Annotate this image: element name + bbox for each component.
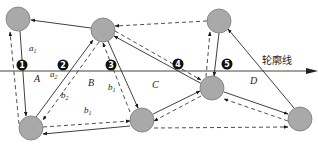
edge-n2-n1 xyxy=(31,20,91,28)
node-4 xyxy=(19,116,43,140)
edge-n6-n2 xyxy=(114,36,202,84)
contour-arrow-icon xyxy=(306,68,318,74)
region-label-d: D xyxy=(249,75,258,86)
edge-label-b1-right: b1 xyxy=(108,82,116,93)
edge-n3-n2 xyxy=(115,21,207,26)
region-label-c: C xyxy=(152,79,159,90)
contour-path-diagram: 轮廓线 xyxy=(0,0,318,144)
svg-text:5: 5 xyxy=(224,60,230,69)
contour-label: 轮廓线 xyxy=(262,54,292,66)
edge-n1-n4 xyxy=(20,31,26,116)
edge-n7-n6 xyxy=(224,99,288,121)
edge-label-a1: a1 xyxy=(29,43,37,54)
edge-n4-n5 xyxy=(43,121,130,127)
node-1 xyxy=(6,7,30,31)
svg-text:1: 1 xyxy=(19,61,25,70)
marker-5: 5 xyxy=(222,59,233,70)
marker-4: 4 xyxy=(173,59,184,70)
edge-n2-n6 xyxy=(115,31,201,80)
svg-text:2: 2 xyxy=(60,61,66,70)
edge-label-b2: b2 xyxy=(61,90,69,101)
node-3 xyxy=(207,9,231,33)
edge-n4-n1 xyxy=(10,32,19,124)
edge-labels: a1 a2 b2 b1 b1 xyxy=(29,43,116,116)
edge-n2-n5 xyxy=(108,41,138,108)
edge-n6-n3 xyxy=(206,32,210,77)
marker-2: 2 xyxy=(58,60,69,71)
contour-line xyxy=(0,68,318,74)
node-6 xyxy=(200,76,224,100)
edge-n7-n3 xyxy=(228,29,294,108)
markers: 1 2 3 4 5 xyxy=(17,59,233,71)
marker-3: 3 xyxy=(106,60,117,71)
edge-n5-n2 xyxy=(103,43,130,112)
svg-text:4: 4 xyxy=(175,60,181,69)
edge-n6-n7 xyxy=(224,92,288,114)
edge-n3-n6 xyxy=(214,33,219,76)
edge-n5-n7 xyxy=(154,127,288,128)
edge-n6-n5 xyxy=(154,96,201,121)
region-label-b: B xyxy=(88,77,94,88)
node-7 xyxy=(288,107,312,131)
node-2 xyxy=(91,18,115,42)
edge-n5-n4 xyxy=(43,126,130,134)
edge-n5-n6 xyxy=(153,91,200,114)
edge-label-b1-bottom: b1 xyxy=(84,105,92,116)
svg-text:3: 3 xyxy=(108,61,114,70)
node-5 xyxy=(130,108,154,132)
region-label-a: A xyxy=(33,73,41,84)
marker-1: 1 xyxy=(17,60,28,71)
